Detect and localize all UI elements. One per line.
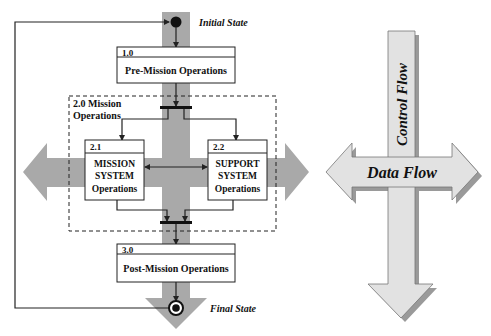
flow-arrow [184,109,236,140]
node-2-2-support-system: 2.2 SUPPORT SYSTEM Operations [208,140,267,200]
final-state-label: Final State [209,303,256,314]
node-line: SYSTEM [95,171,134,181]
data-flow-label: Data Flow [366,164,437,181]
legend: Control Flow Data Flow [326,31,482,322]
fork-bar [160,106,192,109]
node-line: Operations [215,184,261,194]
node-line: Operations [92,184,138,194]
group-label-line1: 2.0 Mission [73,98,122,109]
node-id: 1.0 [122,48,134,58]
node-2-1-mission-system: 2.1 MISSION SYSTEM Operations [85,140,144,200]
node-line: SUPPORT [215,159,260,169]
node-title: Pre-Mission Operations [125,65,227,76]
flow-arrow [122,109,168,140]
group-label-line2: Operations [73,110,121,121]
node-id: 2.2 [213,142,225,152]
join-bar [160,221,192,224]
flow-arrow [185,200,233,221]
node-id: 2.1 [90,142,102,152]
final-state-node [169,301,183,315]
control-flow-label: Control Flow [394,62,410,146]
initial-state-node [171,17,182,28]
node-1-0-pre-mission: 1.0 Pre-Mission Operations [117,47,235,83]
node-line: MISSION [94,159,135,169]
node-id: 3.0 [122,245,134,255]
flow-arrow [117,200,167,221]
node-3-0-post-mission: 3.0 Post-Mission Operations [117,244,235,282]
node-line: SYSTEM [218,171,257,181]
mission-operations-diagram: Initial State 1.0 Pre-Mission Operations… [0,0,491,336]
node-title: Post-Mission Operations [123,263,228,274]
initial-state-label: Initial State [198,17,248,28]
